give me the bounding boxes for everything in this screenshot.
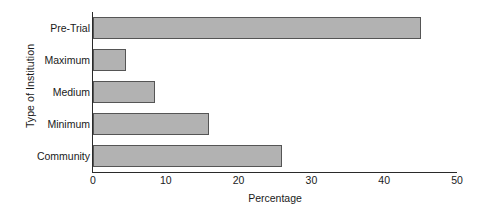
- bar: [93, 81, 155, 103]
- bar-chart-figure: Type of Institution Pre-TrialMaximumMedi…: [0, 0, 485, 212]
- y-axis-category-labels: Pre-TrialMaximumMediumMinimumCommunity: [30, 12, 90, 172]
- x-axis-tick-label: 0: [90, 175, 96, 186]
- x-axis-title: Percentage: [93, 192, 457, 204]
- y-axis-tick-label: Community: [30, 151, 90, 162]
- x-axis-tick-label: 30: [306, 175, 318, 186]
- x-axis-line: [92, 172, 457, 173]
- bar: [93, 17, 421, 39]
- bar: [93, 49, 126, 71]
- bar: [93, 113, 209, 135]
- plot-area: [93, 12, 457, 172]
- y-axis-tick-label: Minimum: [30, 119, 90, 130]
- x-axis-tick-label: 50: [451, 175, 463, 186]
- x-axis-tick-label: 20: [233, 175, 245, 186]
- x-axis-tick-label: 10: [160, 175, 172, 186]
- x-axis-tick-label: 40: [378, 175, 390, 186]
- y-axis-tick-label: Medium: [30, 87, 90, 98]
- x-axis-tick-labels: 01020304050: [93, 175, 457, 189]
- bar: [93, 145, 282, 167]
- y-axis-tick-label: Pre-Trial: [30, 23, 90, 34]
- y-axis-tick-label: Maximum: [30, 55, 90, 66]
